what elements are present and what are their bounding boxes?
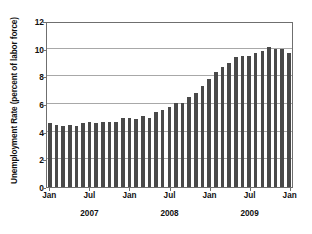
y-axis-tick-mark <box>43 188 46 189</box>
x-axis-tick-label: Jan <box>34 191 64 200</box>
bar <box>207 79 211 187</box>
bar <box>274 49 278 187</box>
bar <box>234 57 238 187</box>
x-axis-tick-mark <box>49 188 50 191</box>
x-axis-tick-label: Jul <box>74 191 104 200</box>
bar <box>141 116 145 187</box>
bar <box>241 56 245 187</box>
x-axis-tick-label: Jan <box>195 191 225 200</box>
x-axis-tick-mark <box>170 188 171 191</box>
bar <box>88 122 92 187</box>
bar <box>227 63 231 188</box>
x-axis-tick-label: Jan <box>114 191 144 200</box>
bar <box>214 72 218 187</box>
x-axis-tick-mark <box>250 188 251 191</box>
x-axis-year-label: 2008 <box>150 209 190 218</box>
bar <box>280 49 284 187</box>
y-axis-tick-label: 2 <box>22 155 44 165</box>
x-axis-tick-mark <box>210 188 211 191</box>
bar <box>114 122 118 187</box>
y-axis-tick-label: 10 <box>22 45 44 55</box>
unemployment-rate-bar-chart: Unemployment Rate (percent of labor forc… <box>0 0 312 234</box>
bar <box>134 119 138 187</box>
bar <box>261 51 265 187</box>
bar <box>254 53 258 187</box>
bar <box>61 126 65 187</box>
y-axis-tick-label: 8 <box>22 72 44 82</box>
bar <box>55 125 59 187</box>
bar <box>81 123 85 187</box>
bar <box>48 123 52 187</box>
bar <box>181 103 185 187</box>
x-axis-tick-mark <box>290 188 291 191</box>
bar <box>154 112 158 187</box>
bar <box>287 53 291 187</box>
bar <box>168 107 172 187</box>
bar-series <box>47 23 292 187</box>
x-axis-tick-label: Jul <box>155 191 185 200</box>
bar <box>94 123 98 187</box>
y-axis-tick-label: 4 <box>22 128 44 138</box>
x-axis-tick-label: Jul <box>235 191 265 200</box>
bar <box>121 118 125 187</box>
bar <box>221 67 225 187</box>
x-axis-year-label: 2009 <box>230 209 270 218</box>
bar <box>148 118 152 187</box>
bar <box>128 118 132 187</box>
bar <box>75 126 79 187</box>
bar <box>247 56 251 187</box>
bar <box>101 122 105 187</box>
bar <box>187 97 191 187</box>
y-axis-label: Unemployment Rate (percent of labor forc… <box>10 13 19 189</box>
bar <box>267 47 271 187</box>
bar <box>161 110 165 187</box>
bar <box>68 125 72 187</box>
bar <box>201 86 205 187</box>
y-axis-tick-label: 6 <box>22 100 44 110</box>
bar <box>174 103 178 187</box>
x-axis-tick-label: Jan <box>275 191 305 200</box>
plot-area <box>46 22 293 188</box>
y-axis-tick-label: 12 <box>22 17 44 27</box>
bar <box>108 122 112 187</box>
bar <box>194 93 198 187</box>
x-axis-tick-mark <box>89 188 90 191</box>
x-axis-year-label: 2007 <box>69 209 109 218</box>
x-axis-tick-mark <box>129 188 130 191</box>
